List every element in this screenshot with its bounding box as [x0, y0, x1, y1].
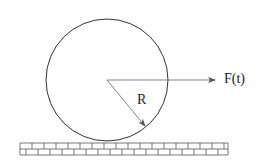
ground-bricks [20, 143, 228, 155]
rolling-wheel-diagram: F(t) R [0, 0, 265, 165]
force-label: F(t) [224, 71, 245, 87]
radius-label: R [137, 92, 147, 107]
